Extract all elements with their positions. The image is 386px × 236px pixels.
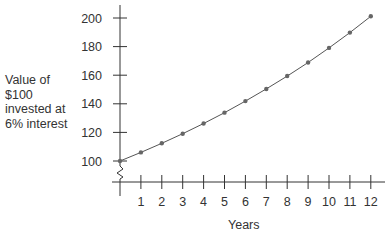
data-point-marker	[222, 110, 226, 114]
x-tick-label: 6	[242, 195, 249, 209]
x-tick-label: 8	[284, 195, 291, 209]
data-series	[118, 14, 373, 163]
x-tick-label: 7	[263, 195, 270, 209]
y-tick-label: 200	[81, 12, 102, 26]
x-tick-label: 10	[322, 195, 336, 209]
x-axis-ticks: 123456789101112	[137, 175, 377, 209]
y-tick-label: 180	[81, 40, 102, 54]
x-tick-label: 3	[179, 195, 186, 209]
y-axis-label-line: 6% interest	[5, 117, 105, 132]
x-tick-label: 11	[343, 195, 356, 209]
y-axis-label-line: $100	[5, 88, 105, 103]
x-tick-label: 4	[200, 195, 207, 209]
data-point-marker	[369, 14, 373, 18]
data-point-marker	[348, 30, 352, 34]
data-point-marker	[181, 131, 185, 135]
data-point-marker	[201, 121, 205, 125]
x-tick-label: 1	[137, 195, 144, 209]
y-axis-label-line: invested at	[5, 102, 105, 117]
x-tick-label: 2	[158, 195, 165, 209]
x-tick-label: 12	[364, 195, 378, 209]
y-axis-label: Value of $100 invested at 6% interest	[5, 73, 105, 131]
data-point-marker	[327, 46, 331, 50]
data-point-marker	[118, 159, 122, 163]
data-point-marker	[243, 99, 247, 103]
data-point-marker	[264, 87, 268, 91]
x-axis-label: Years	[228, 218, 260, 232]
data-point-marker	[160, 141, 164, 145]
axes	[112, 5, 385, 196]
y-axis-label-line: Value of	[5, 73, 105, 88]
x-tick-label: 5	[221, 195, 228, 209]
data-point-marker	[285, 74, 289, 78]
data-point-marker	[139, 150, 143, 154]
data-point-marker	[306, 60, 310, 64]
y-tick-label: 100	[81, 155, 102, 169]
x-tick-label: 9	[305, 195, 312, 209]
series-line	[120, 16, 371, 161]
axis-break-icon	[117, 166, 123, 196]
